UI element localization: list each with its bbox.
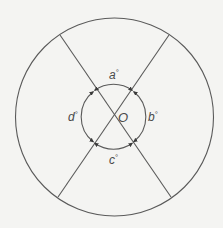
circle-angle-diagram: a° b° c° d° O [0,0,223,228]
angle-arc-b [134,92,146,143]
angle-label-d: d° [68,110,78,124]
angle-arc-d [81,92,93,143]
angle-arc-a [95,84,133,90]
angle-label-c: c° [109,153,118,167]
angle-label-b: b° [148,110,158,124]
center-label-O: O [118,110,128,125]
angle-label-a: a° [109,68,119,82]
angle-arc-c [95,143,133,149]
outer-circle [16,18,214,216]
